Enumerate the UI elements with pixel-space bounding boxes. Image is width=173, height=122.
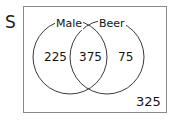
set-label-male: Male [55, 18, 83, 30]
region-count-male-only: 225 [44, 51, 67, 64]
region-count-intersection: 375 [79, 51, 102, 64]
region-count-beer-only: 75 [118, 51, 133, 64]
set-label-beer: Beer [98, 18, 126, 30]
region-count-outside-both: 325 [136, 95, 161, 109]
venn-diagram-figure: S Male Beer 225 375 75 325 [0, 0, 173, 122]
